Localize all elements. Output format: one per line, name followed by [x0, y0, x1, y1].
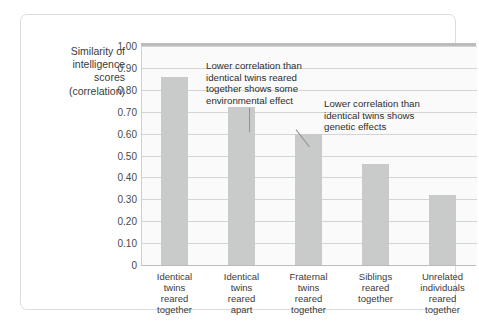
x-axis-tick-label-line: reared — [206, 293, 278, 304]
y-axis-tick-label: 1.00 — [97, 41, 137, 52]
annotation-line: Lower correlation than — [206, 60, 302, 72]
x-axis-tick-label: Identicaltwinsrearedtogether — [139, 271, 211, 315]
x-axis-tick-label-line: twins — [273, 282, 345, 293]
annotation-genetic-effect: Lower correlation thanidentical twins sh… — [324, 98, 420, 133]
y-axis-tick-label: 0.60 — [97, 128, 137, 139]
x-axis-tick-label-line: Identical — [139, 271, 211, 282]
annotation-line: identical twins shows — [324, 110, 420, 122]
x-axis-tick-label-line: together — [139, 304, 211, 315]
annotation-leader-line — [249, 108, 250, 132]
y-axis-tick-label: 0.20 — [97, 216, 137, 227]
y-axis-tick-labels: 1.000.900.800.700.600.500.400.300.200.10… — [95, 43, 137, 268]
x-axis-tick-label-line: reared — [273, 293, 345, 304]
y-axis-tick-label: 0.30 — [97, 194, 137, 205]
y-axis-tick-label: 0 — [97, 260, 137, 271]
figure-card: Similarity of intelligence scores (corre… — [20, 14, 456, 310]
x-axis-tick-label: Identicaltwinsrearedapart — [206, 271, 278, 315]
y-axis-tick-label: 0.50 — [97, 150, 137, 161]
y-axis-tick-label: 0.80 — [97, 84, 137, 95]
annotation-line: Lower correlation than — [324, 98, 420, 110]
plot-frame — [141, 43, 476, 268]
annotation-line: environmental effect — [206, 95, 302, 107]
x-axis-tick-label-line: Siblings — [340, 271, 412, 282]
x-axis-tick-label-line: Fraternal — [273, 271, 345, 282]
y-axis-tick-label: 0.10 — [97, 238, 137, 249]
y-axis-tick-label: 0.70 — [97, 106, 137, 117]
bar — [295, 134, 322, 265]
x-axis-tick-label-line: reared — [407, 293, 479, 304]
x-axis-tick-label-line: twins — [139, 282, 211, 293]
annotation-environmental-effect: Lower correlation thanidentical twins re… — [206, 60, 302, 106]
x-axis-tick-label-line: together — [407, 304, 479, 315]
x-axis-tick-label-line: individuals — [407, 282, 479, 293]
x-axis-tick-label-line: twins — [206, 282, 278, 293]
bar — [161, 77, 188, 265]
bar — [429, 195, 456, 265]
annotation-line: identical twins reared — [206, 72, 302, 84]
x-axis-tick-label-line: reared — [139, 293, 211, 304]
bar — [362, 164, 389, 265]
x-axis-line — [141, 265, 476, 266]
x-axis-tick-label-line: apart — [206, 304, 278, 315]
x-axis-tick-label-line: together — [340, 293, 412, 304]
bar-series — [141, 43, 476, 265]
annotation-line: genetic effects — [324, 121, 420, 133]
x-axis-tick-label-line: Unrelated — [407, 271, 479, 282]
x-axis-tick-label-line: together — [273, 304, 345, 315]
annotation-line: together shows some — [206, 83, 302, 95]
x-axis-tick-labels: IdenticaltwinsrearedtogetherIdenticaltwi… — [141, 271, 476, 323]
x-axis-tick-label-line: reared — [340, 282, 412, 293]
x-axis-tick-label: Siblingsrearedtogether — [340, 271, 412, 304]
bar — [228, 107, 255, 265]
x-axis-tick-label-line: Identical — [206, 271, 278, 282]
x-axis-tick-label: Fraternaltwinsrearedtogether — [273, 271, 345, 315]
y-axis-tick-label: 0.40 — [97, 172, 137, 183]
y-axis-tick-label: 0.90 — [97, 62, 137, 73]
x-axis-tick-label: Unrelatedindividualsrearedtogether — [407, 271, 479, 315]
